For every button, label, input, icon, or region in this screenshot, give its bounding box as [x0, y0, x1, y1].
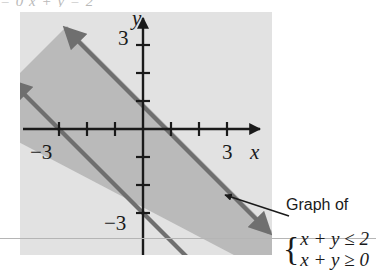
y-tick-label-positive-3: 3: [118, 28, 129, 49]
cropped-formula-text: = 0 x + y = 2: [0, 0, 376, 7]
inequality-second: x + y ≥ 0: [300, 249, 369, 270]
x-tick-label-positive-3: 3: [222, 142, 233, 163]
callout-title: Graph of: [286, 196, 376, 214]
callout-block: Graph of: [286, 196, 376, 214]
y-tick-label-negative-3: −3: [104, 213, 126, 234]
x-axis-label: x: [250, 142, 259, 163]
graph-figure: = 0 x + y = 2: [0, 0, 376, 278]
x-tick-label-negative-3: −3: [30, 142, 52, 163]
inequality-first: x + y ≤ 2: [300, 228, 369, 249]
system-brace: {: [283, 236, 299, 263]
callout-system-of-inequalities: { x + y ≤ 2 x + y ≥ 0: [283, 228, 369, 271]
y-axis-label: y: [132, 8, 141, 29]
inequality-stack: x + y ≤ 2 x + y ≥ 0: [300, 228, 369, 271]
